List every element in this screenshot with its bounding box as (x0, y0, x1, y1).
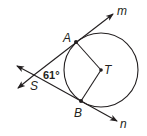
point-a (74, 40, 78, 44)
label-n: n (120, 117, 127, 131)
line-n-back (17, 66, 34, 75)
label-b: B (74, 106, 82, 120)
label-a: A (62, 31, 71, 45)
segment-tb (81, 70, 101, 101)
angle-label: 61° (43, 69, 60, 81)
label-s: S (30, 79, 38, 93)
label-t: T (104, 63, 113, 77)
line-m (34, 14, 113, 75)
geometry-diagram: m n A B T S 61° (0, 0, 147, 136)
point-t (99, 68, 103, 72)
point-b (79, 99, 83, 103)
label-m: m (117, 4, 127, 18)
segment-ta (76, 42, 101, 70)
